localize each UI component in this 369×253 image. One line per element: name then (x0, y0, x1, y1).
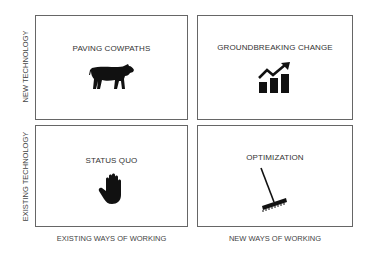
quadrant-title: STATUS QUO (36, 156, 187, 165)
x-axis-label-existing-ways: EXISTING WAYS OF WORKING (35, 234, 188, 243)
quadrant-groundbreaking-change: GROUNDBREAKING CHANGE (197, 15, 353, 120)
quadrant-paving-cowpaths: PAVING COWPATHS (35, 15, 188, 120)
quadrant-title: PAVING COWPATHS (36, 44, 187, 53)
x-axis-label-new-ways: NEW WAYS OF WORKING (197, 234, 353, 243)
y-axis-label-new-technology: NEW TECHNOLOGY (21, 17, 30, 117)
quadrant-title: GROUNDBREAKING CHANGE (198, 43, 352, 52)
growth-chart-icon (257, 62, 293, 94)
quadrant-optimization: OPTIMIZATION (197, 125, 353, 227)
quadrant-status-quo: STATUS QUO (35, 125, 188, 227)
rake-icon (256, 166, 290, 212)
cow-icon (88, 63, 136, 91)
y-axis-label-existing-technology: EXISTING TECHNOLOGY (21, 122, 30, 232)
hand-stop-icon (98, 173, 126, 205)
quadrant-title: OPTIMIZATION (198, 153, 352, 162)
